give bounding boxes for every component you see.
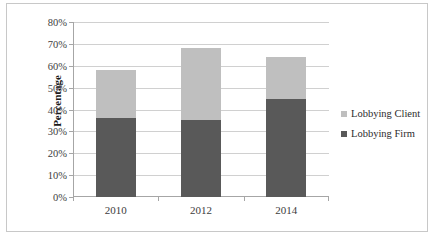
legend-entry[interactable]: Lobbying Firm — [341, 128, 420, 139]
x-axis-tick — [244, 197, 245, 201]
y-axis-tick-label: 70% — [48, 38, 67, 49]
x-axis-tick-label: 2014 — [275, 204, 297, 216]
legend-swatch-icon — [341, 111, 347, 117]
gridline — [73, 22, 329, 23]
y-axis-tick-label: 40% — [48, 104, 67, 115]
y-axis-tick-label: 60% — [48, 60, 67, 71]
legend-label: Lobbying Firm — [351, 128, 415, 139]
x-axis-tick — [73, 197, 74, 201]
bar-stack — [266, 57, 306, 197]
y-axis-tick-label: 30% — [48, 126, 67, 137]
chart-figure: Percentage 0%10%20%30%40%50%60%70%80% 20… — [0, 0, 435, 246]
y-axis-tick-label: 0% — [53, 192, 67, 203]
x-axis-tick-label: 2010 — [105, 204, 127, 216]
bar-segment-lobbying-client — [181, 48, 221, 120]
bar-stack — [181, 48, 221, 197]
bar-segment-lobbying-firm — [266, 99, 306, 197]
y-axis-tick-label: 10% — [48, 170, 67, 181]
x-axis-tick — [328, 197, 329, 201]
y-axis-tick-label: 80% — [48, 17, 67, 28]
legend-swatch-icon — [341, 131, 347, 137]
legend-label: Lobbying Client — [351, 108, 420, 119]
bar-segment-lobbying-firm — [96, 118, 136, 197]
chart-frame: Percentage 0%10%20%30%40%50%60%70%80% 20… — [6, 3, 428, 232]
x-axis-tick — [158, 197, 159, 201]
bar-segment-lobbying-firm — [181, 120, 221, 197]
bar-segment-lobbying-client — [96, 70, 136, 118]
bar-stack — [96, 70, 136, 197]
chart-legend: Lobbying ClientLobbying Firm — [341, 108, 420, 139]
x-axis-tick-label: 2012 — [190, 204, 212, 216]
y-axis-tick-label: 50% — [48, 82, 67, 93]
legend-entry[interactable]: Lobbying Client — [341, 108, 420, 119]
y-axis-line — [73, 22, 74, 197]
plot-area: 0%10%20%30%40%50%60%70%80% 201020122014 — [73, 22, 329, 197]
y-axis-tick-label: 20% — [48, 148, 67, 159]
gridline — [73, 44, 329, 45]
bar-segment-lobbying-client — [266, 57, 306, 99]
